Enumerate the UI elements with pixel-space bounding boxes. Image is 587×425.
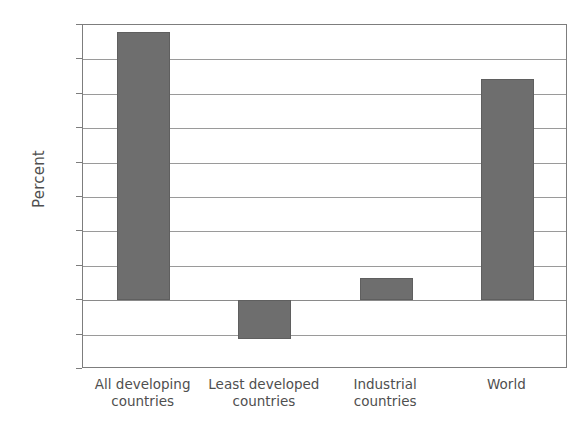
x-category-label: Industrial countries	[325, 376, 446, 410]
bar	[360, 278, 413, 300]
x-category-label: Least developed countries	[203, 376, 324, 410]
gridline-0	[83, 300, 566, 301]
bar	[238, 300, 291, 339]
bar	[117, 32, 170, 300]
tick-mark--10	[76, 368, 82, 369]
bar-chart-figure: Percent 4035302520151050−5−10 All develo…	[0, 0, 587, 425]
plot-area	[82, 24, 567, 368]
bar	[481, 79, 534, 300]
x-category-label: World	[446, 376, 567, 393]
gridline--5	[83, 335, 566, 336]
y-axis-title: Percent	[30, 119, 48, 239]
x-category-label: All developing countries	[82, 376, 203, 410]
